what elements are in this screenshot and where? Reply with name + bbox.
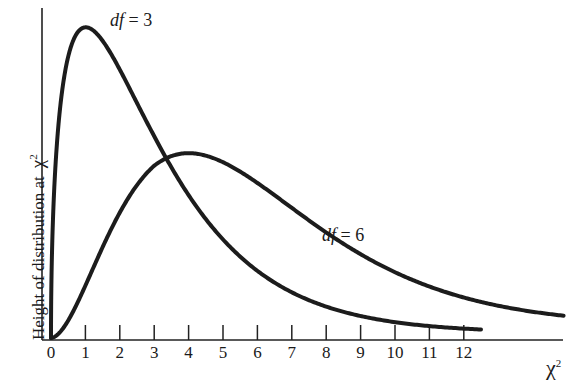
curve-df-3 [51,27,481,338]
x-tick-label: 9 [356,343,365,363]
chart-canvas [0,0,581,386]
x-tick-label: 0 [47,343,56,363]
y-axis-label: Height of distribution atχ2 [27,154,49,340]
x-tick-label: 10 [387,343,404,363]
x-tick-label: 12 [455,343,472,363]
x-axis-label: χ2 [546,355,561,381]
label-df-3: df = 3 [110,10,152,31]
label-df-6: df = 6 [322,225,364,246]
x-tick-label: 4 [184,343,193,363]
x-tick-label: 1 [81,343,90,363]
x-tick-label: 11 [421,343,437,363]
x-tick-label: 6 [253,343,262,363]
x-tick-label: 5 [219,343,228,363]
y-axis-label-text: Height of distribution at [29,176,48,340]
curve-df-6 [51,153,564,338]
x-tick-label: 2 [116,343,125,363]
x-axis-ticks [85,325,463,340]
y-axis-label-symbol: χ2 [27,154,48,168]
x-tick-label: 8 [322,343,331,363]
x-tick-label: 7 [288,343,297,363]
x-tick-label: 3 [150,343,159,363]
